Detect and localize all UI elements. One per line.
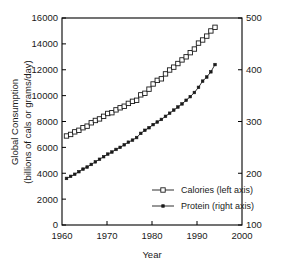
data-point bbox=[213, 25, 217, 29]
dual-axis-line-chart: 0200040006000800010000120001400016000 10… bbox=[0, 0, 299, 263]
tick-label: 2000 bbox=[37, 194, 58, 205]
data-point bbox=[78, 170, 81, 173]
data-point bbox=[164, 115, 167, 118]
data-point bbox=[160, 118, 163, 121]
data-point bbox=[111, 151, 114, 154]
tick-label: 1960 bbox=[51, 230, 72, 241]
y-axis-title-line1: Global Consumption bbox=[9, 79, 20, 165]
tick-label: 0 bbox=[53, 219, 58, 230]
tick-label: 400 bbox=[246, 64, 262, 75]
data-point bbox=[152, 123, 155, 126]
data-point bbox=[119, 146, 122, 149]
tick-label: 14000 bbox=[32, 38, 58, 49]
data-point bbox=[123, 143, 126, 146]
data-point bbox=[69, 175, 72, 178]
data-point bbox=[159, 77, 163, 81]
tick-label: 8000 bbox=[37, 116, 58, 127]
data-point bbox=[86, 166, 89, 169]
tick-label: 4000 bbox=[37, 168, 58, 179]
data-point bbox=[65, 177, 68, 180]
data-point bbox=[90, 163, 93, 166]
data-point bbox=[177, 106, 180, 109]
data-point bbox=[189, 95, 192, 98]
data-point bbox=[139, 132, 142, 135]
data-point bbox=[168, 112, 171, 115]
data-point bbox=[205, 34, 209, 38]
data-point bbox=[205, 76, 208, 79]
data-point bbox=[148, 126, 151, 129]
data-point bbox=[147, 87, 151, 91]
tick-label: 2000 bbox=[231, 230, 252, 241]
tick-label: 500 bbox=[246, 12, 262, 23]
data-point bbox=[156, 121, 159, 124]
data-point bbox=[98, 158, 101, 161]
data-point bbox=[185, 99, 188, 102]
tick-label: 1980 bbox=[141, 230, 162, 241]
data-point bbox=[214, 63, 217, 66]
x-axis-title: Year bbox=[142, 249, 161, 260]
tick-label: 1970 bbox=[96, 230, 117, 241]
tick-label: 10000 bbox=[32, 90, 58, 101]
tick-label: 200 bbox=[246, 168, 262, 179]
tick-label: 6000 bbox=[37, 142, 58, 153]
data-point bbox=[82, 168, 85, 171]
tick-label: 1990 bbox=[186, 230, 207, 241]
data-point bbox=[134, 98, 138, 102]
data-point bbox=[210, 71, 213, 74]
data-point bbox=[193, 91, 196, 94]
data-point bbox=[144, 129, 147, 132]
data-point bbox=[106, 153, 109, 156]
data-point bbox=[201, 80, 204, 83]
data-point bbox=[94, 161, 97, 164]
data-point bbox=[192, 47, 196, 51]
data-point bbox=[127, 141, 130, 144]
legend-marker bbox=[162, 205, 165, 208]
legend-marker bbox=[161, 188, 165, 192]
chart-figure: 0200040006000800010000120001400016000 10… bbox=[0, 0, 299, 263]
data-point bbox=[115, 148, 118, 151]
data-point bbox=[172, 109, 175, 112]
data-point bbox=[135, 136, 138, 139]
tick-label: 300 bbox=[246, 116, 262, 127]
tick-label: 12000 bbox=[32, 64, 58, 75]
tick-label: 16000 bbox=[32, 12, 58, 23]
data-point bbox=[102, 155, 105, 158]
legend-label: Calories (left axis) bbox=[181, 185, 253, 195]
data-point bbox=[73, 173, 76, 176]
legend-label: Protein (right axis) bbox=[181, 201, 254, 211]
data-point bbox=[181, 103, 184, 106]
data-point bbox=[131, 139, 134, 142]
tick-label: 100 bbox=[246, 219, 262, 230]
y-axis-title-line2: (billions of cals or grams/day) bbox=[22, 60, 33, 184]
data-point bbox=[197, 86, 200, 89]
